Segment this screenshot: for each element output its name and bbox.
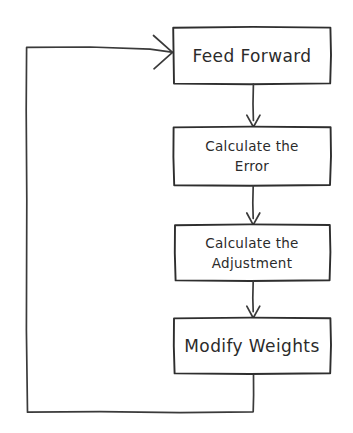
node-calculate-the-adjustment[interactable]: Calculate the Adjustment xyxy=(175,224,331,281)
node-feed-forward[interactable]: Feed Forward xyxy=(173,27,331,84)
node-calculate-the-adjustment-label-line2: Adjustment xyxy=(212,255,293,271)
flowchart-diagram: Feed Forward Calculate the Error Calcula… xyxy=(0,0,353,433)
node-modify-weights-label: Modify Weights xyxy=(184,336,319,356)
node-calculate-the-error-label-line1: Calculate the xyxy=(205,138,298,154)
node-modify-weights[interactable]: Modify Weights xyxy=(174,318,331,374)
diagram-canvas: Feed Forward Calculate the Error Calcula… xyxy=(0,0,353,433)
edge-adjustment-to-modify-weights xyxy=(247,281,260,318)
edge-feed-forward-to-error xyxy=(247,84,260,127)
node-feed-forward-label: Feed Forward xyxy=(192,46,311,66)
node-calculate-the-adjustment-label-line1: Calculate the xyxy=(205,235,298,251)
node-calculate-the-error[interactable]: Calculate the Error xyxy=(173,127,331,186)
node-calculate-the-error-label-line2: Error xyxy=(235,158,270,174)
edge-error-to-adjustment xyxy=(247,186,260,225)
